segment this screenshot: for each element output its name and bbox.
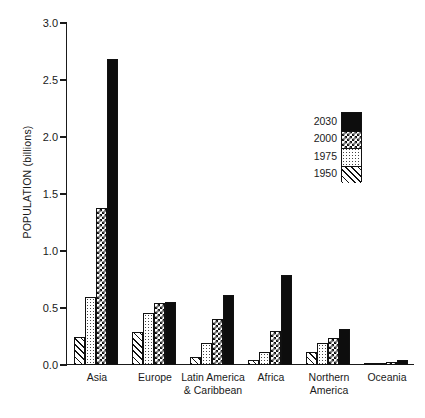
y-axis-tick-label: 1.5 [18, 188, 58, 200]
bar-2000 [270, 331, 281, 365]
legend-label-1950: 1950 [289, 167, 337, 179]
legend-swatch-column [341, 112, 362, 182]
bar-1950 [364, 363, 375, 365]
legend-swatch-1975 [342, 148, 361, 166]
bar-2030 [223, 295, 234, 365]
bar-2030 [107, 59, 118, 365]
bar-group [306, 23, 352, 365]
plot-area [66, 23, 414, 365]
legend-swatch-2030 [342, 113, 361, 131]
bar-2000 [386, 362, 397, 365]
legend-separator [342, 166, 361, 167]
legend-separator [342, 148, 361, 149]
bar-2000 [154, 303, 165, 365]
y-axis-tick-label: 1.0 [18, 245, 58, 257]
legend-label-2000: 2000 [289, 132, 337, 144]
y-axis-tick-label: 2.5 [18, 74, 58, 86]
legend-label-2030: 2030 [289, 115, 337, 127]
bar-2000 [96, 208, 107, 365]
bar-1950 [248, 360, 259, 365]
bar-group [74, 23, 120, 365]
y-axis-tick-label: 0.0 [18, 359, 58, 371]
bar-group [190, 23, 236, 365]
y-axis-tick-label: 0.5 [18, 302, 58, 314]
bar-2030 [281, 275, 292, 365]
legend-swatch-2000 [342, 131, 361, 149]
legend-swatch-1950 [342, 166, 361, 184]
y-axis-tick-label: 3.0 [18, 17, 58, 29]
bar-group [364, 23, 410, 365]
bar-1975 [259, 352, 270, 365]
bar-group [132, 23, 178, 365]
bar-2000 [328, 338, 339, 365]
bar-1950 [190, 357, 201, 365]
bar-2030 [339, 329, 350, 365]
x-axis-category-label: Oceania [332, 371, 425, 384]
bar-1975 [375, 363, 386, 365]
bar-1975 [143, 313, 154, 365]
bar-2030 [165, 302, 176, 365]
bar-1975 [317, 343, 328, 365]
bar-2030 [397, 360, 408, 365]
bar-2000 [212, 319, 223, 365]
legend-separator [342, 131, 361, 132]
bar-1975 [201, 343, 212, 365]
bar-1975 [85, 297, 96, 365]
population-bar-chart: POPULATION (billions) 3.02.52.01.51.00.5… [0, 0, 425, 418]
bar-1950 [132, 332, 143, 365]
bar-1950 [306, 352, 317, 365]
bar-1950 [74, 337, 85, 366]
legend-label-1975: 1975 [289, 150, 337, 162]
y-axis-tick-label: 2.0 [18, 131, 58, 143]
bar-group [248, 23, 294, 365]
chart-legend: 2030200019751950 [286, 112, 362, 182]
y-axis-title: POPULATION (billions) [21, 47, 33, 317]
